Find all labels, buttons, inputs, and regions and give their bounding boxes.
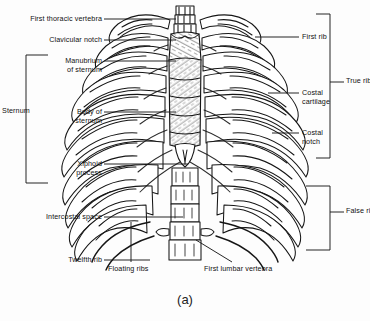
bracket-label-true-ribs: True ribs — [346, 77, 370, 86]
label-intercostal-space: Intercostal space — [0, 213, 102, 222]
bracket-false-ribs — [306, 186, 330, 250]
bracket-label-false-ribs: False ribs — [346, 207, 370, 216]
label-costal-notch: Costal notch — [302, 129, 368, 146]
label-costal-cartilage: Costal cartilage — [302, 89, 368, 106]
ribs-left-side — [62, 15, 170, 270]
figure-rib-cage: .s {fill:none;stroke:#161616;stroke-widt… — [0, 0, 370, 321]
figure-caption: (a) — [0, 292, 370, 307]
ribs-right-side — [200, 15, 308, 270]
sternum-bone — [169, 32, 201, 167]
label-clavicular-notch: Clavicular notch — [0, 36, 102, 45]
thoracic-vertebra-column — [174, 6, 196, 34]
label-first-lumbar-vertebra: First lumbar vertebra — [204, 265, 309, 274]
label-twelfth-rib: Twelfth rib — [0, 256, 102, 265]
bracket-label-sternum: Sternum — [2, 107, 26, 116]
label-floating-ribs: Floating ribs — [108, 265, 178, 274]
label-xiphoid-process: Xiphoid process — [0, 160, 102, 177]
label-first-thoracic-vertebra: First thoracic vertebra — [0, 15, 102, 24]
label-first-rib: First rib — [302, 33, 368, 42]
label-manubrium-of-sternum: Manubrium of sternum — [0, 57, 102, 74]
